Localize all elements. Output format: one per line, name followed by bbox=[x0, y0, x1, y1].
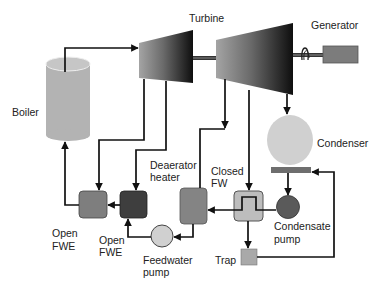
open-fwe-2-label-1: Open bbox=[99, 234, 125, 246]
deaerator-label-1: Deaerator bbox=[150, 159, 197, 171]
condenser bbox=[267, 115, 313, 165]
deaerator-to-pump bbox=[174, 224, 193, 237]
open-fwe-2 bbox=[120, 191, 147, 218]
feedwater-pump-label-2: pump bbox=[143, 266, 169, 278]
trap bbox=[241, 249, 257, 265]
condenser-plate bbox=[271, 167, 311, 173]
closed-fw-label-2: FW bbox=[211, 177, 227, 189]
generator bbox=[323, 46, 358, 63]
lp-turbine bbox=[216, 23, 293, 95]
boiler bbox=[46, 57, 90, 141]
boiler-label: Boiler bbox=[12, 106, 39, 118]
feedwater-pump bbox=[151, 225, 173, 247]
pump-to-fwe2 bbox=[128, 219, 151, 237]
deaerator-heater bbox=[180, 188, 207, 224]
condensate-pump-label-2: pump bbox=[274, 233, 300, 245]
fwe1-to-boiler bbox=[65, 142, 79, 205]
feedwater-pump-label-1: Feedwater bbox=[143, 254, 193, 266]
open-fwe-1 bbox=[79, 191, 107, 218]
closed-feedwater-heater bbox=[234, 191, 263, 221]
condenser-label: Condenser bbox=[317, 137, 368, 149]
open-fwe-1-label-2: FWE bbox=[52, 240, 75, 252]
turbine-label: Turbine bbox=[189, 12, 224, 24]
generator-label: Generator bbox=[311, 19, 358, 31]
condensate-pump bbox=[277, 196, 300, 219]
deaerator-label-2: heater bbox=[150, 171, 180, 183]
hp-turbine bbox=[139, 30, 193, 83]
trap-label: Trap bbox=[215, 254, 236, 266]
generator-shaft bbox=[293, 48, 324, 60]
condensate-pump-label-1: Condensate bbox=[274, 220, 331, 232]
open-fwe-2-label-2: FWE bbox=[99, 246, 122, 258]
closed-fw-label-1: Closed bbox=[211, 165, 244, 177]
open-fwe-1-label-1: Open bbox=[52, 227, 78, 239]
feedwater-u-tube bbox=[208, 197, 276, 210]
hp-bleed-1 bbox=[99, 79, 144, 190]
